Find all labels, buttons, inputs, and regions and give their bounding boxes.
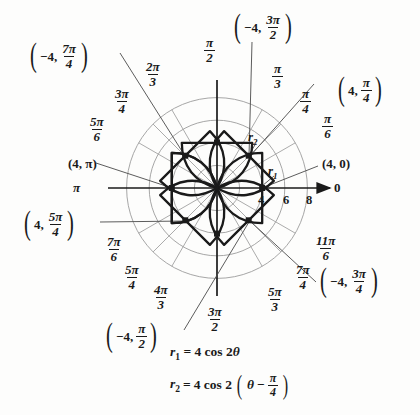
angle-label-5pi-over-6: 5π6 bbox=[88, 115, 106, 143]
radial-tick-4: 4 bbox=[258, 194, 264, 207]
marker-4-pi bbox=[169, 185, 175, 191]
angle-label-5pi-over-4: 5π4 bbox=[123, 263, 141, 291]
curve-label-r1: r1 bbox=[268, 164, 278, 181]
angle-label-7pi-over-4: 7π4 bbox=[294, 263, 312, 291]
angle-label-3pi-over-4: 3π4 bbox=[113, 87, 131, 115]
equation-r2: r2 = 4 cos 2 ( θ − π4 ) bbox=[170, 372, 290, 398]
angle-label-pi-over-3: π3 bbox=[272, 62, 283, 90]
equation-r1: r1 = 4 cos 2θ bbox=[170, 345, 240, 362]
callout-minus4-3pi-4: ( −4, 3π4 ) bbox=[318, 267, 380, 295]
angle-label-7pi-over-6: 7π6 bbox=[105, 235, 123, 263]
angle-label-5pi-over-3: 5π3 bbox=[266, 285, 284, 313]
callout-4-pi-4: ( 4, π4 ) bbox=[336, 76, 384, 104]
marker-4-0 bbox=[259, 185, 265, 191]
callout-minus4-7pi-4: ( −4, 7π4 ) bbox=[28, 42, 90, 70]
callout-4-pi: (4, π) bbox=[68, 157, 97, 170]
angle-label-zero: 0 bbox=[334, 181, 341, 194]
angle-label-4pi-over-3: 4π3 bbox=[152, 283, 170, 311]
marker-4-5pi-4 bbox=[182, 217, 188, 223]
callout-minus4-3pi-2: ( −4, 3π2 ) bbox=[232, 13, 294, 41]
callout-4-0: (4, 0) bbox=[322, 157, 350, 170]
radial-tick-6: 6 bbox=[283, 194, 289, 207]
curve-label-r2: r2 bbox=[248, 130, 258, 147]
callout-4-5pi-4: ( 4, 5π4 ) bbox=[22, 210, 76, 238]
marker-m4-7pi-4 bbox=[182, 153, 188, 159]
angle-label-pi-over-2: π2 bbox=[204, 36, 215, 64]
angle-label-pi-over-4: π4 bbox=[300, 87, 311, 115]
callout-minus4-pi-2: ( −4, π2 ) bbox=[104, 322, 159, 350]
marker-m4-3pi-2 bbox=[214, 139, 220, 145]
angle-label-11pi-over-6: 11π6 bbox=[314, 234, 337, 262]
polar-rose-figure: π2 π3 π4 π6 2π3 3π4 5π6 7π6 5π4 4π3 3π2 … bbox=[0, 0, 420, 415]
angle-label-3pi-over-2: 3π2 bbox=[206, 305, 224, 333]
angle-label-2pi-over-3: 2π3 bbox=[144, 60, 162, 88]
angle-label-pi: π bbox=[73, 181, 80, 194]
marker-m4-3pi-4 bbox=[246, 217, 252, 223]
radial-tick-8: 8 bbox=[306, 194, 312, 207]
angle-label-pi-over-6: π6 bbox=[322, 112, 333, 140]
marker-m4-pi-2 bbox=[214, 231, 220, 237]
marker-4-pi-4 bbox=[246, 153, 252, 159]
